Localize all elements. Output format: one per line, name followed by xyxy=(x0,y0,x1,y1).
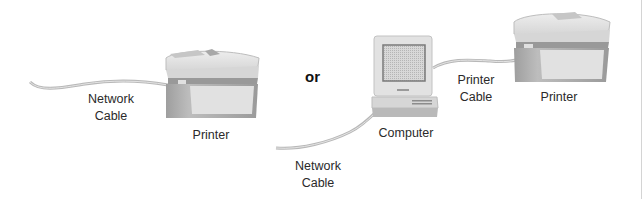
printer-label-right: Printer xyxy=(534,89,584,106)
printer-cable-label: Printer Cable xyxy=(452,72,500,106)
computer-icon xyxy=(372,36,438,117)
printer-icon-right xyxy=(514,12,610,82)
label-line: Network xyxy=(288,158,348,175)
label-line: Cable xyxy=(288,175,348,192)
printer-cable xyxy=(433,60,516,68)
label-line: Printer xyxy=(452,72,500,89)
network-cable-label-left: Network Cable xyxy=(82,91,140,125)
right-border-line xyxy=(641,0,642,199)
network-cable-label-lower: Network Cable xyxy=(288,158,348,192)
connection-diagram: Network Cable Printer or Network Cable C… xyxy=(0,0,643,199)
label-line: Cable xyxy=(452,89,500,106)
printer-icon-left xyxy=(166,49,259,118)
label-line: Network xyxy=(82,91,140,108)
network-cable-left xyxy=(30,81,168,88)
label-line: Cable xyxy=(82,108,140,125)
network-cable-lower xyxy=(276,110,378,148)
computer-label: Computer xyxy=(372,125,440,142)
printer-label-left: Printer xyxy=(186,127,236,144)
or-separator: or xyxy=(305,68,320,85)
